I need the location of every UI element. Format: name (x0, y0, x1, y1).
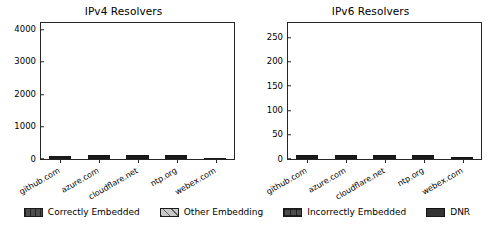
bar-segment-correctly-embedded (335, 158, 357, 159)
x-tick-mark (463, 160, 464, 163)
x-tick-mark (177, 160, 178, 163)
legend-item-incorrectly-embedded[interactable]: Incorrectly Embedded (283, 207, 406, 217)
bar-segment-correctly-embedded (451, 158, 473, 159)
x-tick-label: ntp.org (148, 166, 178, 188)
x-tick-label: ntp.org (395, 166, 425, 188)
y-tick-label: 150 (267, 82, 288, 91)
chart-legend: Correctly EmbeddedOther EmbeddingIncorre… (0, 202, 494, 222)
legend-item-dnr[interactable]: DNR (426, 207, 470, 217)
legend-label: DNR (450, 207, 470, 217)
bar-segment-correctly-embedded (88, 158, 110, 159)
x-tick-mark (138, 160, 139, 163)
legend-swatch-correctly-embedded (24, 208, 43, 217)
bar-segment-correctly-embedded (412, 158, 434, 159)
bars-ipv4 (41, 23, 234, 159)
legend-swatch-incorrectly-embedded (283, 208, 302, 217)
chart-title-ipv4: IPv4 Resolvers (0, 5, 247, 17)
x-tick-mark (424, 160, 425, 163)
x-tick-label: github.com (17, 166, 61, 196)
legend-label: Other Embedding (184, 207, 263, 217)
bar-webex-com (204, 158, 226, 159)
bar-webex-com (451, 157, 473, 159)
x-tick-mark (307, 160, 308, 163)
x-tick-label: webex.com (420, 166, 464, 197)
plot-area-ipv4: 01000200030004000 (40, 22, 235, 160)
y-tick-label: 200 (267, 58, 288, 67)
chart-title-ipv6: IPv6 Resolvers (247, 5, 494, 17)
x-tick-mark (346, 160, 347, 163)
bar-cloudflare-net (126, 155, 148, 159)
bar-github-com (49, 156, 71, 159)
legend-swatch-other-embedding (160, 208, 179, 217)
x-tick-label: webex.com (173, 166, 217, 197)
x-axis-ipv6: github.comazure.comcloudflare.netntp.org… (287, 160, 482, 190)
y-tick-label: 2000 (14, 90, 41, 99)
panel-ipv6: IPv6 Resolvers 050100150200250 github.co… (247, 0, 494, 190)
bar-segment-correctly-embedded (126, 158, 148, 159)
x-tick-mark (216, 160, 217, 163)
bar-ntp-org (165, 155, 187, 159)
x-tick-label: github.com (264, 166, 308, 196)
bar-azure-com (335, 155, 357, 159)
y-tick-label: 1000 (14, 122, 41, 131)
y-tick-label: 4000 (14, 25, 41, 34)
y-tick-label: 100 (267, 106, 288, 115)
y-tick-label: 250 (267, 33, 288, 42)
legend-swatch-dnr (426, 208, 445, 217)
plot-area-ipv6: 050100150200250 (287, 22, 482, 160)
panel-ipv4: IPv4 Resolvers 01000200030004000 github.… (0, 0, 247, 190)
y-tick-label: 3000 (14, 58, 41, 67)
legend-item-correctly-embedded[interactable]: Correctly Embedded (24, 207, 140, 217)
x-tick-mark (385, 160, 386, 163)
x-tick-mark (60, 160, 61, 163)
bar-azure-com (88, 155, 110, 159)
figure: IPv4 Resolvers 01000200030004000 github.… (0, 0, 494, 228)
legend-label: Incorrectly Embedded (307, 207, 406, 217)
bar-ntp-org (412, 155, 434, 159)
panels-row: IPv4 Resolvers 01000200030004000 github.… (0, 0, 494, 190)
bar-segment-correctly-embedded (204, 158, 226, 159)
bar-segment-correctly-embedded (49, 158, 71, 159)
x-axis-ipv4: github.comazure.comcloudflare.netntp.org… (40, 160, 235, 190)
bar-cloudflare-net (373, 155, 395, 159)
bar-github-com (296, 155, 318, 159)
bar-segment-correctly-embedded (373, 158, 395, 159)
legend-label: Correctly Embedded (48, 207, 140, 217)
bar-segment-correctly-embedded (296, 158, 318, 159)
legend-item-other-embedding[interactable]: Other Embedding (160, 207, 263, 217)
x-tick-mark (99, 160, 100, 163)
bars-ipv6 (288, 23, 481, 159)
bar-segment-correctly-embedded (165, 158, 187, 159)
y-tick-label: 50 (272, 130, 288, 139)
